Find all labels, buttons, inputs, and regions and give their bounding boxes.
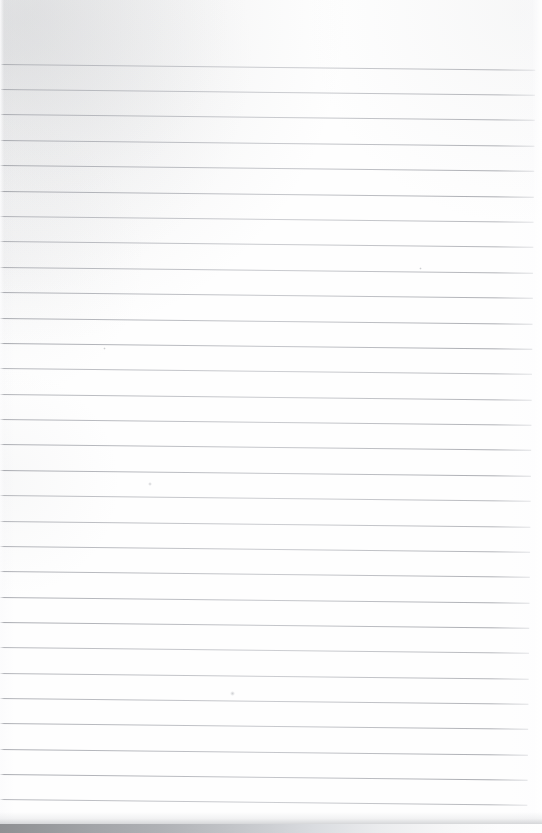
rule-line bbox=[0, 723, 528, 730]
rule-line bbox=[0, 597, 530, 604]
right-edge-fade bbox=[532, 0, 542, 833]
rule-line bbox=[0, 546, 530, 553]
rule-line bbox=[0, 647, 529, 654]
rule-line bbox=[0, 470, 531, 477]
scanned-page bbox=[0, 0, 542, 833]
rule-line bbox=[0, 521, 530, 528]
rule-line bbox=[0, 368, 532, 375]
rule-line bbox=[1, 114, 535, 121]
bottom-edge-soft-shadow bbox=[0, 812, 542, 824]
ruled-lines-group bbox=[0, 0, 542, 833]
rule-line bbox=[0, 318, 533, 325]
rule-line bbox=[1, 64, 535, 71]
rule-line bbox=[0, 241, 533, 248]
rule-line bbox=[0, 191, 534, 198]
rule-line bbox=[0, 749, 528, 756]
rule-line bbox=[0, 140, 534, 147]
rule-line bbox=[0, 267, 533, 274]
rule-line bbox=[0, 799, 527, 806]
scan-speck bbox=[230, 691, 235, 696]
rule-line bbox=[1, 89, 535, 96]
rule-line bbox=[0, 673, 529, 680]
rule-line bbox=[0, 698, 528, 705]
rule-line bbox=[0, 419, 531, 426]
scan-speck bbox=[103, 347, 106, 350]
rule-line bbox=[0, 343, 532, 350]
rule-line bbox=[0, 216, 534, 223]
scan-speck bbox=[148, 482, 152, 486]
rule-line bbox=[0, 495, 531, 502]
rule-line bbox=[0, 571, 530, 578]
rule-line bbox=[0, 774, 528, 781]
rule-line bbox=[0, 394, 532, 401]
rule-line bbox=[0, 292, 533, 299]
left-edge-fade bbox=[0, 0, 4, 833]
rule-line bbox=[0, 165, 534, 172]
rule-line bbox=[0, 444, 531, 451]
rule-line bbox=[0, 622, 529, 629]
scanner-edge-shadow-band bbox=[0, 824, 542, 833]
scan-speck bbox=[419, 267, 422, 270]
